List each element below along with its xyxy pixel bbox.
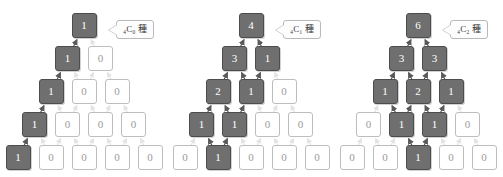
callout-label: ₄C₂ 種	[457, 24, 481, 34]
combination-callout: ₄C₂ 種	[450, 20, 488, 39]
pascal-cell: 1	[255, 46, 280, 71]
pascal-triangle-figure: 110100100010000₄C₀ 種431210110001000₄C₁ 種…	[0, 0, 503, 177]
pascal-cell: 0	[373, 145, 398, 170]
pascal-cell: 0	[255, 112, 280, 137]
pascal-cell: 1	[189, 112, 214, 137]
callout-tail	[443, 25, 451, 35]
pyramid-c0: 110100100010000₄C₀ 種	[0, 0, 168, 177]
pascal-cell: 0	[72, 145, 97, 170]
pascal-cell: 1	[406, 145, 431, 170]
callout-label: ₄C₀ 種	[123, 24, 147, 34]
pascal-cell: 6	[406, 13, 431, 38]
pascal-cell: 3	[389, 46, 414, 71]
pascal-cell: 0	[272, 145, 297, 170]
pascal-cell: 1	[239, 79, 264, 104]
pascal-cell: 0	[121, 112, 146, 137]
pascal-cell: 0	[88, 112, 113, 137]
pascal-cell: 1	[222, 112, 247, 137]
callout-label: ₄C₁ 種	[290, 24, 314, 34]
pascal-cell: 1	[55, 46, 80, 71]
pascal-cell: 0	[239, 145, 264, 170]
pascal-cell: 0	[472, 145, 497, 170]
pascal-cell: 1	[439, 79, 464, 104]
pascal-cell: 0	[173, 145, 198, 170]
pascal-cell: 0	[105, 145, 130, 170]
pascal-cell: 3	[422, 46, 447, 71]
pyramid-c1: 431210110001000₄C₁ 種	[167, 0, 335, 177]
pascal-cell: 2	[206, 79, 231, 104]
pascal-cell: 1	[22, 112, 47, 137]
callout-tail	[276, 25, 284, 35]
pascal-cell: 4	[239, 13, 264, 38]
pascal-cell: 0	[455, 112, 480, 137]
pascal-cell: 1	[422, 112, 447, 137]
pascal-cell: 0	[439, 145, 464, 170]
pascal-cell: 0	[138, 145, 163, 170]
pascal-cell: 1	[206, 145, 231, 170]
pascal-cell: 1	[389, 112, 414, 137]
pascal-cell: 1	[6, 145, 31, 170]
combination-callout: ₄C₀ 種	[116, 20, 154, 39]
pascal-cell: 1	[373, 79, 398, 104]
pascal-cell: 0	[88, 46, 113, 71]
callout-tail	[109, 25, 117, 35]
pascal-cell: 0	[340, 145, 365, 170]
pascal-cell: 1	[39, 79, 64, 104]
pascal-cell: 0	[356, 112, 381, 137]
pascal-cell: 2	[406, 79, 431, 104]
pascal-cell: 0	[305, 145, 330, 170]
pascal-cell: 0	[288, 112, 313, 137]
pascal-cell: 0	[272, 79, 297, 104]
pascal-cell: 0	[72, 79, 97, 104]
pascal-cell: 0	[105, 79, 130, 104]
pascal-cell: 0	[39, 145, 64, 170]
pascal-cell: 0	[55, 112, 80, 137]
pascal-cell: 1	[72, 13, 97, 38]
pascal-cell: 3	[222, 46, 247, 71]
pyramid-c2: 633121011000100₄C₂ 種	[334, 0, 502, 177]
combination-callout: ₄C₁ 種	[283, 20, 321, 39]
